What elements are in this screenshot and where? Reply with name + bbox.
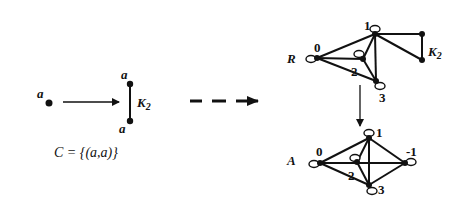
r-vertex-0 (314, 55, 320, 61)
r-vertex-2 (360, 56, 366, 62)
a-vertex-0 (317, 160, 323, 166)
r-label-1: 1 (364, 18, 371, 33)
a-label-neg1: -1 (406, 144, 417, 159)
diagram-canvas: a a a K2 C = {(a,a)} R (0, 0, 464, 214)
left-diagram: a a a K2 C = {(a,a)} (37, 67, 151, 161)
a-vertex-3 (366, 182, 372, 188)
r-graph-name: R (286, 51, 296, 66)
r-k2-label: K2 (427, 44, 442, 61)
k2-top-vertex (127, 81, 133, 87)
r-label-0: 0 (314, 40, 321, 55)
a-vertex-2 (354, 159, 360, 165)
k2-vertex-bottom (419, 57, 425, 63)
k2-top-label: a (121, 67, 128, 82)
a-label-1: 1 (376, 125, 383, 140)
a-graph-name: A (286, 153, 296, 168)
a-vertex-neg1 (402, 160, 408, 166)
k2-bottom-label: a (119, 121, 126, 136)
r-label-3: 3 (379, 90, 386, 105)
a-vertex-1 (366, 135, 372, 141)
source-vertex (46, 100, 53, 107)
a-label-0: 0 (316, 144, 323, 159)
k2-label: K2 (136, 95, 151, 112)
constraint-text: C = {(a,a)} (54, 145, 118, 161)
r-graph: R 0 1 2 3 K2 (286, 18, 442, 105)
r-vertex-1 (372, 31, 378, 37)
k2-bottom-vertex (127, 118, 133, 124)
a-loop-3 (367, 188, 377, 195)
a-graph: A 0 1 2 3 -1 (286, 125, 417, 197)
k2-vertex-top (419, 31, 425, 37)
r-label-2: 2 (351, 64, 358, 79)
a-label-2: 2 (348, 168, 355, 183)
a-label-3: 3 (378, 182, 385, 197)
source-vertex-label: a (37, 86, 44, 101)
r-vertex-3 (373, 78, 379, 84)
